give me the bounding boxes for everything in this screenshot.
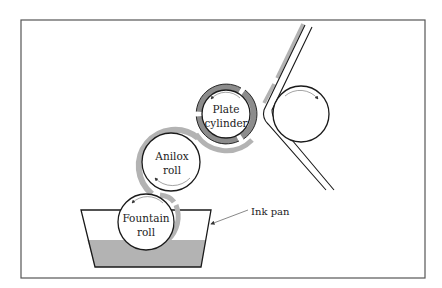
flexo-diagram: Fountain roll Anilox roll Plate cylinder… <box>0 0 442 288</box>
ink-pan-label: Ink pan <box>251 206 290 217</box>
impression-cylinder <box>273 86 329 142</box>
plate-label-1: Plate <box>212 103 239 115</box>
plate-label-2: cylinder <box>204 117 248 129</box>
anilox-label-2: roll <box>163 164 182 176</box>
anilox-label-1: Anilox <box>154 150 188 162</box>
fountain-label-2: roll <box>137 226 156 238</box>
ink-on-web <box>277 24 303 78</box>
anilox-roll <box>142 133 200 191</box>
fountain-label-1: Fountain <box>122 212 169 224</box>
ink-pan-leader <box>211 210 248 224</box>
